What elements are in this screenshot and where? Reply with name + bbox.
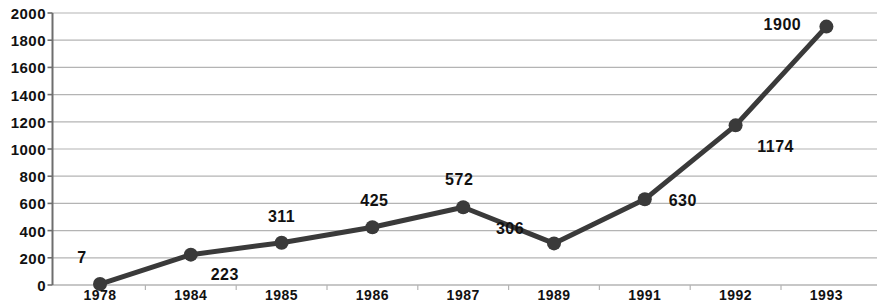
data-point-marker — [184, 248, 198, 262]
x-axis-tick-label: 1978 — [83, 288, 116, 302]
x-axis-tick-label: 1984 — [174, 288, 207, 302]
data-point-marker — [456, 200, 470, 214]
x-axis-tick-label: 1986 — [356, 288, 389, 302]
y-axis-tick-label: 1600 — [11, 60, 46, 75]
series-line — [100, 27, 826, 284]
data-series-line — [100, 27, 826, 284]
y-axis-tick-label: 1800 — [11, 33, 46, 48]
data-point-markers — [93, 20, 833, 291]
y-axis-tick-label: 1200 — [11, 115, 46, 130]
data-point-marker — [638, 192, 652, 206]
data-point-label: 306 — [496, 221, 524, 237]
x-axis-tick-label: 1989 — [537, 288, 570, 302]
x-axis-tick-label: 1987 — [447, 288, 480, 302]
y-axis-tick-label: 1400 — [11, 88, 46, 103]
data-point-label: 7 — [77, 250, 86, 266]
data-point-label: 630 — [669, 193, 697, 209]
chart-plot-area — [0, 0, 877, 303]
data-point-marker — [819, 20, 833, 34]
y-axis-tick-label: 600 — [19, 196, 46, 211]
data-point-label: 1174 — [757, 139, 794, 155]
data-point-marker — [547, 236, 561, 250]
y-axis-tick-label: 400 — [19, 224, 46, 239]
data-point-label: 1900 — [764, 17, 802, 33]
y-axis-tick-label: 200 — [19, 251, 46, 266]
x-axis-tick-label: 1991 — [628, 288, 661, 302]
data-point-label: 425 — [360, 193, 388, 209]
x-axis-tick-label: 1985 — [265, 288, 298, 302]
line-chart: 2000180016001400120010008006004002000 19… — [0, 0, 877, 303]
data-point-label: 572 — [445, 172, 473, 188]
data-point-marker — [275, 236, 289, 250]
y-axis-tick-label: 1000 — [11, 142, 46, 157]
data-point-marker — [365, 220, 379, 234]
data-point-label: 223 — [211, 267, 239, 283]
y-axis-tick-label: 0 — [37, 278, 46, 293]
y-axis-tick-label: 800 — [19, 169, 46, 184]
x-axis-tick-label: 1993 — [810, 288, 843, 302]
y-axis-tick-label: 2000 — [11, 6, 46, 21]
gridlines — [48, 13, 877, 285]
data-point-marker — [729, 118, 743, 132]
x-axis-tick-label: 1992 — [719, 288, 752, 302]
data-point-label: 311 — [268, 209, 295, 225]
y-axis-tick-labels: 2000180016001400120010008006004002000 — [0, 0, 46, 303]
